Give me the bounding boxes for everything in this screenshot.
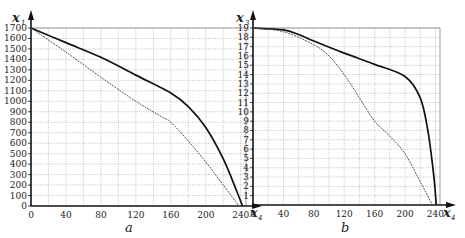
y-tick-label: 1000 xyxy=(4,96,27,106)
x-tick-label: 200 xyxy=(396,209,413,219)
x-tick-label: 120 xyxy=(127,210,144,220)
y-tick-label: 1200 xyxy=(4,75,27,85)
y-tick-label: 3 xyxy=(243,172,249,182)
y-tick-label: 400 xyxy=(10,159,27,169)
y-tick-label: 11 xyxy=(238,98,249,108)
y-tick-label: 4 xyxy=(243,163,249,173)
x-tick-label: 40 xyxy=(60,210,72,220)
y-tick-label: 15 xyxy=(238,60,250,70)
y-tick-label: 12 xyxy=(238,88,249,98)
x-axis-label-a-sub: 4 xyxy=(257,214,262,222)
y-axis-label-b-sub: 3 xyxy=(245,19,250,27)
x-axis-label-a: x xyxy=(249,205,258,220)
y-tick-label: 900 xyxy=(10,107,27,117)
y-tick-label: 1300 xyxy=(4,65,27,75)
y-tick-label: 600 xyxy=(10,138,27,148)
y-tick-label: 1400 xyxy=(4,54,27,64)
y-tick-label: 200 xyxy=(10,180,27,190)
y-tick-label: 10 xyxy=(238,107,250,117)
panel-label-a: a xyxy=(125,220,133,235)
y-tick-label: 7 xyxy=(243,135,249,145)
x-tick-label: 80 xyxy=(95,210,107,220)
y-tick-label: 500 xyxy=(10,149,27,159)
x-tick-label: 80 xyxy=(308,209,320,219)
x-tick-label: 0 xyxy=(28,210,34,220)
x-tick-label: 240 xyxy=(427,209,444,219)
y-tick-label: 8 xyxy=(243,125,249,135)
chart-figure: 0100200300400500600700800900100011001200… xyxy=(0,0,465,238)
y-tick-label: 1 xyxy=(243,191,249,201)
y-axis-label-b: x xyxy=(235,10,244,25)
y-axis-arrow-icon xyxy=(250,10,256,20)
y-tick-label: 9 xyxy=(243,116,249,126)
chart-panel-a: 0100200300400500600700800900100011001200… xyxy=(4,10,262,220)
y-tick-label: 5 xyxy=(243,153,249,163)
series-dashed xyxy=(253,28,432,205)
y-tick-label: 700 xyxy=(10,128,27,138)
y-tick-label: 1600 xyxy=(4,33,27,43)
x-tick-label: 160 xyxy=(366,209,383,219)
y-tick-label: 13 xyxy=(238,79,250,89)
y-tick-label: 300 xyxy=(10,170,27,180)
y-tick-label: 18 xyxy=(238,32,250,42)
panel-label-b: b xyxy=(341,220,349,235)
x-axis-label-b: x xyxy=(442,205,451,220)
y-axis-label-a: x xyxy=(11,10,20,25)
x-tick-label: 120 xyxy=(336,209,353,219)
x-axis-label-b-sub: 4 xyxy=(450,214,455,222)
y-tick-label: 100 xyxy=(10,191,27,201)
x-tick-label: 240 xyxy=(232,210,249,220)
y-tick-label: 17 xyxy=(238,42,250,52)
y-tick-label: 1100 xyxy=(4,86,27,96)
series-solid xyxy=(31,28,243,206)
x-tick-label: 40 xyxy=(278,209,290,219)
chart-panel-b: 1234567891011121314151617181904080120160… xyxy=(238,10,456,219)
x-tick-label: 200 xyxy=(197,210,214,220)
y-tick-label: 2 xyxy=(243,181,249,191)
y-tick-label: 6 xyxy=(243,144,249,154)
y-tick-label: 800 xyxy=(10,117,27,127)
y-tick-label: 0 xyxy=(21,201,27,211)
y-axis-arrow-icon xyxy=(28,10,34,20)
y-tick-label: 16 xyxy=(238,51,250,61)
y-tick-label: 1500 xyxy=(4,44,27,54)
y-tick-label: 14 xyxy=(238,70,250,80)
y-axis-label-a-sub: 1 xyxy=(21,19,25,27)
series-dashed xyxy=(31,28,239,206)
x-tick-label: 160 xyxy=(162,210,179,220)
series-solid xyxy=(253,28,436,205)
